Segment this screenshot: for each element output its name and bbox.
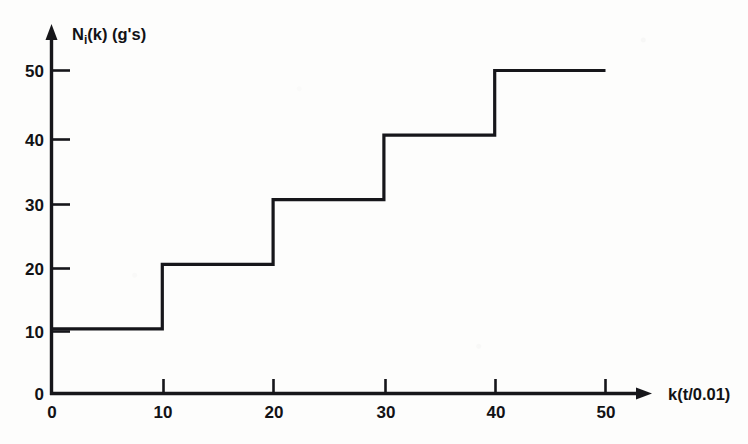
x-tick-label-20: 20: [265, 403, 284, 422]
y-axis-title-main: N: [72, 25, 84, 43]
x-tick-label-30: 30: [377, 403, 396, 422]
x-tick-label-40: 40: [487, 403, 506, 422]
chart-page: 50 40 30 20 10 0 0 10 20 30 40 50 Ni(k) …: [0, 0, 748, 444]
y-axis-title-rest: (k) (g's): [87, 25, 146, 43]
y-tick-label-10: 10: [25, 323, 44, 342]
y-tick-label-50: 50: [25, 62, 44, 81]
x-tick-label-0: 0: [47, 403, 56, 422]
x-axis-ticks: [164, 379, 606, 394]
x-tick-label-50: 50: [597, 403, 616, 422]
y-tick-label-40: 40: [25, 131, 44, 150]
y-tick-label-0: 0: [35, 385, 44, 404]
y-axis-ticks: [52, 71, 71, 332]
step-function-series: [52, 71, 606, 329]
x-axis-title: k(t/0.01): [668, 385, 730, 403]
y-axis-arrow-icon: [46, 24, 58, 40]
y-axis-title: Ni(k) (g's): [72, 25, 146, 47]
y-tick-label-30: 30: [25, 196, 44, 215]
x-axis-arrow-icon: [636, 388, 652, 400]
x-tick-label-10: 10: [154, 403, 173, 422]
step-function-chart: 50 40 30 20 10 0 0 10 20 30 40 50 Ni(k) …: [0, 0, 748, 444]
y-tick-label-20: 20: [25, 260, 44, 279]
